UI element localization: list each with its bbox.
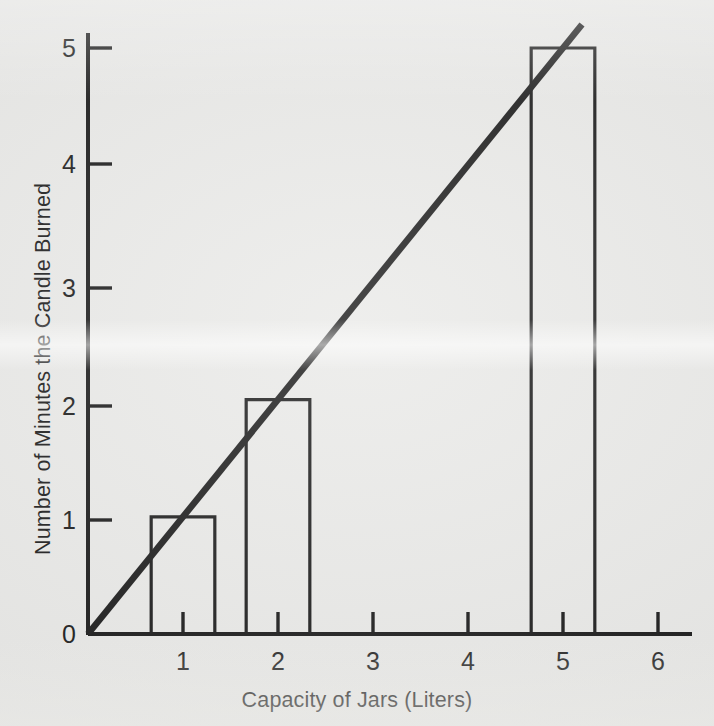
bar xyxy=(531,48,595,634)
x-tick-label-6: 6 xyxy=(651,647,665,675)
y-tick-label-4: 4 xyxy=(62,150,76,178)
x-tick-label-5: 5 xyxy=(556,647,570,675)
axes-group xyxy=(88,33,692,635)
y-tick-label-5: 5 xyxy=(62,34,76,62)
y-tick-label-1: 1 xyxy=(62,506,76,534)
x-tick-label-1: 1 xyxy=(176,647,190,675)
bars-group xyxy=(151,48,595,634)
x-axis-title: Capacity of Jars (Liters) xyxy=(0,688,714,713)
x-tick-label-4: 4 xyxy=(461,647,475,675)
bar-chart-plot: 5 4 3 2 1 0 1 2 3 4 5 6 xyxy=(0,0,714,726)
y-axis-title: Number of Minutes the Candle Burned xyxy=(31,183,56,555)
y-tick-label-3: 3 xyxy=(62,274,76,302)
x-axis-tick-labels: 1 2 3 4 5 6 xyxy=(176,647,665,675)
trend-line xyxy=(88,25,582,634)
y-tick-label-2: 2 xyxy=(62,392,76,420)
y-axis-ticks xyxy=(89,48,112,520)
trend-line-group xyxy=(88,25,582,634)
y-tick-label-0: 0 xyxy=(62,620,76,648)
chart-page: 5 4 3 2 1 0 1 2 3 4 5 6 Capacity xyxy=(0,0,714,726)
x-tick-label-3: 3 xyxy=(366,647,380,675)
x-tick-label-2: 2 xyxy=(271,647,285,675)
x-axis-ticks xyxy=(183,612,658,633)
y-axis-tick-labels: 5 4 3 2 1 0 xyxy=(62,34,76,648)
bar xyxy=(246,400,310,634)
